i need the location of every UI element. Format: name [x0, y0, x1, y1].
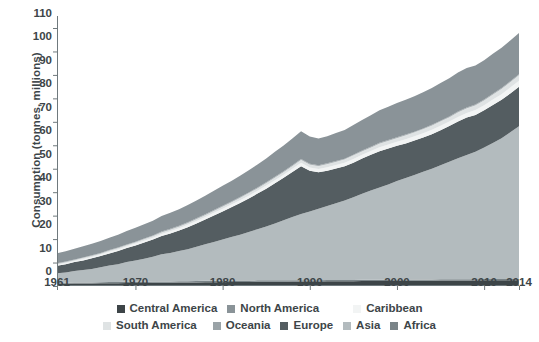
legend-label: South America — [116, 320, 197, 332]
x-axis-tick: 1990 — [297, 276, 323, 288]
legend-item[interactable]: South America — [103, 320, 197, 332]
legend-item[interactable]: Central America — [117, 303, 218, 315]
legend-item[interactable]: Caribbean — [353, 303, 422, 315]
y-axis-tick: 40 — [39, 171, 52, 183]
y-axis-tick: 60 — [39, 124, 52, 136]
y-axis-tick: 90 — [39, 54, 52, 66]
legend-swatch-icon — [343, 322, 351, 330]
y-axis-tick: 50 — [39, 148, 52, 160]
y-axis-tick: 80 — [39, 77, 52, 89]
y-axis-tick-labels: 1101009080706050403020100 — [0, 0, 52, 290]
stacked-area-svg — [57, 14, 519, 292]
x-axis-tick: 2014 — [506, 276, 532, 288]
legend-label: Africa — [403, 320, 436, 332]
legend-swatch-icon — [353, 305, 361, 313]
x-axis-tick: 1961 — [44, 276, 70, 288]
legend-item[interactable]: Europe — [280, 320, 333, 332]
legend-item[interactable]: Asia — [343, 320, 380, 332]
legend-swatch-icon — [117, 305, 125, 313]
legend-swatch-icon — [213, 322, 221, 330]
legend-label: Central America — [130, 303, 218, 315]
y-axis-tick: 70 — [39, 101, 52, 113]
x-axis-tick: 2000 — [384, 276, 410, 288]
legend-label: Caribbean — [366, 303, 422, 315]
y-axis-tick: 20 — [39, 218, 52, 230]
y-axis-tick: 100 — [33, 30, 52, 42]
legend-label: Europe — [293, 320, 333, 332]
x-axis-tick: 1970 — [123, 276, 149, 288]
legend-row-2: South AmericaOceaniaEuropeAsiaAfrica — [0, 317, 539, 334]
x-axis-tick: 2010 — [471, 276, 497, 288]
chart-container: Consumption (tonnes, millions) 110100908… — [0, 0, 539, 342]
legend-item[interactable]: North America — [227, 303, 319, 315]
legend-swatch-icon — [390, 322, 398, 330]
legend-item[interactable]: Africa — [390, 320, 436, 332]
legend-row-1: Central AmericaNorth AmericaCaribbean — [0, 300, 539, 317]
y-axis-tick: 10 — [39, 242, 52, 254]
y-axis-tick: 30 — [39, 195, 52, 207]
x-axis-tick-labels: 1961197019801990200020102014 — [0, 276, 539, 294]
legend-swatch-icon — [103, 322, 111, 330]
legend-swatch-icon — [280, 322, 288, 330]
y-axis-tick: 110 — [33, 7, 52, 19]
legend-label: North America — [240, 303, 319, 315]
legend-item[interactable]: Oceania — [213, 320, 271, 332]
plot-area — [57, 14, 519, 272]
chart-legend: Central AmericaNorth AmericaCaribbean So… — [0, 300, 539, 334]
x-axis-tick: 1980 — [210, 276, 236, 288]
legend-swatch-icon — [227, 305, 235, 313]
legend-label: Asia — [356, 320, 380, 332]
legend-label: Oceania — [226, 320, 271, 332]
